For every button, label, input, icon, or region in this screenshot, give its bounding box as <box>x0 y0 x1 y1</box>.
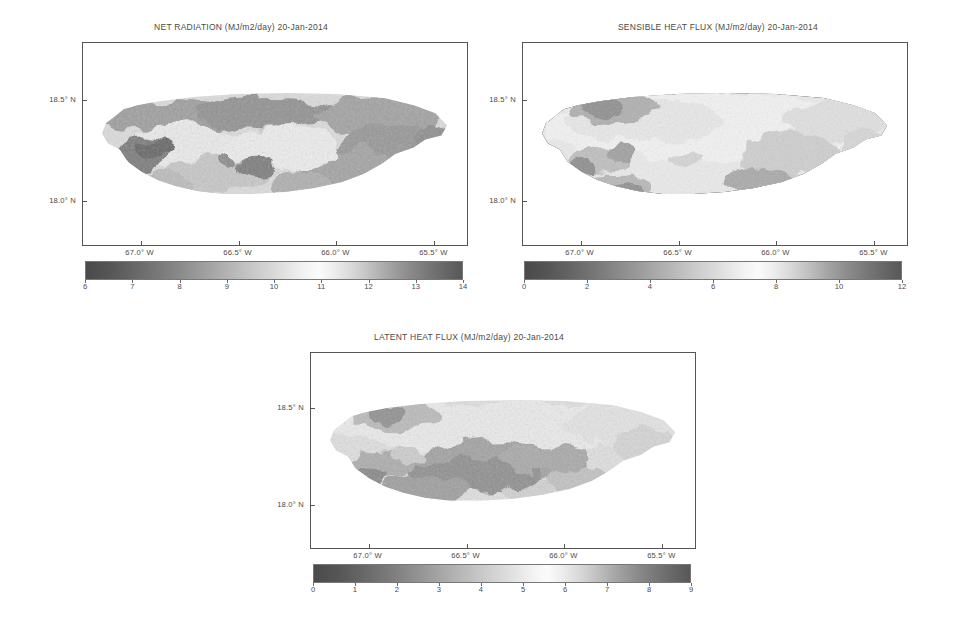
colorbar-latent-heat-flux[interactable]: 0 1 2 3 4 5 6 7 8 9 <box>313 564 691 583</box>
yticklabel-0: 18.0° N <box>468 195 516 204</box>
ytick-1 <box>310 408 315 409</box>
island-raster-latent-heat-flux <box>326 394 683 515</box>
cbar-label-5: 10 <box>835 282 843 291</box>
cbar-label-6: 12 <box>898 282 906 291</box>
axes-net-radiation[interactable] <box>82 42 468 246</box>
xtick-1 <box>239 241 240 246</box>
xticklabel-2: 66.0° W <box>761 248 790 257</box>
cbar-label-4: 8 <box>774 282 778 291</box>
panel-title-net-radiation: NET RADIATION (MJ/m2/day) 20-Jan-2014 <box>0 22 482 32</box>
figure-canvas: NET RADIATION (MJ/m2/day) 20-Jan-2014 <box>0 0 958 622</box>
cbar-label-2: 4 <box>648 282 652 291</box>
xticklabel-1: 66.5° W <box>223 248 252 257</box>
cbar-label-3: 9 <box>225 282 229 291</box>
cbar-label-3: 6 <box>711 282 715 291</box>
xtick-0 <box>581 241 582 246</box>
cbar-label-5: 5 <box>521 585 525 594</box>
xticklabel-2: 66.0° W <box>549 551 578 560</box>
panel-sensible-heat-flux: SENSIBLE HEAT FLUX (MJ/m2/day) 20-Jan-20… <box>478 22 958 272</box>
panel-net-radiation: NET RADIATION (MJ/m2/day) 20-Jan-2014 <box>0 22 482 272</box>
yticklabel-1: 18.5° N <box>256 402 304 411</box>
xtick-0 <box>369 544 370 549</box>
panel-latent-heat-flux: LATENT HEAT FLUX (MJ/m2/day) 20-Jan-2014 <box>228 332 710 592</box>
cbar-label-1: 2 <box>585 282 589 291</box>
xticklabel-0: 67.0° W <box>565 248 594 257</box>
xtick-3 <box>434 241 435 246</box>
raster-sensible-heat-flux <box>523 43 907 245</box>
axes-sensible-heat-flux[interactable] <box>522 42 908 246</box>
cbar-label-9: 9 <box>689 585 693 594</box>
cbar-label-6: 12 <box>364 282 372 291</box>
cbar-label-2: 2 <box>395 585 399 594</box>
xticklabel-2: 66.0° W <box>321 248 350 257</box>
xtick-1 <box>467 544 468 549</box>
xtick-3 <box>874 241 875 246</box>
ytick-1 <box>82 100 87 101</box>
island-raster-net-radiation <box>98 87 455 208</box>
cbar-label-6: 6 <box>563 585 567 594</box>
yticklabel-0: 18.0° N <box>28 195 76 204</box>
ytick-0 <box>310 505 315 506</box>
cbar-label-4: 10 <box>270 282 278 291</box>
island-raster-sensible-heat-flux <box>538 87 895 208</box>
cbar-label-0: 0 <box>311 585 315 594</box>
xticklabel-3: 65.5° W <box>419 248 448 257</box>
cbar-label-4: 4 <box>479 585 483 594</box>
colorbar-net-radiation[interactable]: 6 7 8 9 10 11 12 13 14 <box>85 261 463 280</box>
colorbar-gradient-net-radiation <box>85 261 463 280</box>
cbar-label-3: 3 <box>437 585 441 594</box>
panel-title-latent-heat-flux: LATENT HEAT FLUX (MJ/m2/day) 20-Jan-2014 <box>228 332 710 342</box>
xtick-2 <box>776 241 777 246</box>
ytick-0 <box>522 201 527 202</box>
xticklabel-3: 65.5° W <box>647 551 676 560</box>
cbar-label-5: 11 <box>317 282 325 291</box>
colorbar-gradient-sensible-heat-flux <box>524 261 902 280</box>
xticklabel-1: 66.5° W <box>451 551 480 560</box>
cbar-label-8: 14 <box>459 282 467 291</box>
xtick-2 <box>336 241 337 246</box>
cbar-label-2: 8 <box>177 282 181 291</box>
xticklabel-3: 65.5° W <box>859 248 888 257</box>
cbar-label-0: 6 <box>83 282 87 291</box>
yticklabel-1: 18.5° N <box>468 94 516 103</box>
xtick-2 <box>564 544 565 549</box>
colorbar-gradient-latent-heat-flux <box>313 564 691 583</box>
yticklabel-0: 18.0° N <box>256 500 304 509</box>
raster-latent-heat-flux <box>311 353 695 548</box>
cbar-label-1: 7 <box>130 282 134 291</box>
cbar-label-1: 1 <box>353 585 357 594</box>
xtick-0 <box>141 241 142 246</box>
xticklabel-0: 67.0° W <box>125 248 154 257</box>
raster-net-radiation <box>83 43 467 245</box>
xticklabel-0: 67.0° W <box>353 551 382 560</box>
yticklabel-1: 18.5° N <box>28 94 76 103</box>
cbar-label-0: 0 <box>522 282 526 291</box>
xticklabel-1: 66.5° W <box>663 248 692 257</box>
colorbar-sensible-heat-flux[interactable]: 0 2 4 6 8 10 12 <box>524 261 902 280</box>
xtick-1 <box>679 241 680 246</box>
xtick-3 <box>662 544 663 549</box>
axes-latent-heat-flux[interactable] <box>310 352 696 549</box>
cbar-label-7: 7 <box>605 585 609 594</box>
cbar-label-8: 8 <box>647 585 651 594</box>
ytick-1 <box>522 100 527 101</box>
panel-title-sensible-heat-flux: SENSIBLE HEAT FLUX (MJ/m2/day) 20-Jan-20… <box>478 22 958 32</box>
ytick-0 <box>82 201 87 202</box>
cbar-label-7: 13 <box>412 282 420 291</box>
